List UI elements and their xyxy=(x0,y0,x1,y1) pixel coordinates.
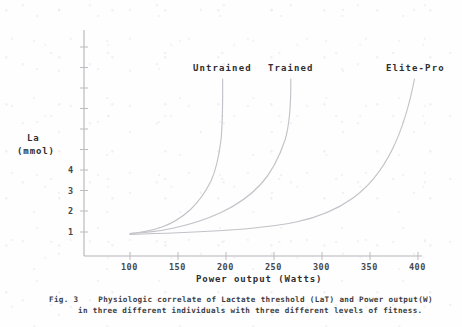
y-tick-label-4: 4 xyxy=(68,165,74,175)
y-tick-label-2: 2 xyxy=(68,206,74,216)
y-tick-label-3: 3 xyxy=(68,186,74,196)
x-tick-label-250: 250 xyxy=(265,262,282,272)
series-label-elite-pro: Elite-Pro xyxy=(386,63,445,73)
x-tick-label-400: 400 xyxy=(409,262,426,272)
curve-trained xyxy=(130,79,291,234)
y-axis-title-line2: (mmol) xyxy=(17,146,55,156)
x-tick-label-100: 100 xyxy=(121,262,138,272)
curve-elite-pro xyxy=(130,79,415,235)
x-axis-title: Power output (Watts) xyxy=(196,274,322,284)
curve-untrained xyxy=(130,79,223,234)
x-tick-label-200: 200 xyxy=(217,262,234,272)
figure-caption-line2: in three different individuals with thre… xyxy=(78,306,423,315)
series-label-untrained: Untrained xyxy=(193,63,252,73)
y-tick-label-1: 1 xyxy=(68,227,74,237)
x-tick-label-350: 350 xyxy=(361,262,378,272)
figure-caption-line1: Fig. 3 Physiologic correlate of Lactate … xyxy=(49,295,433,304)
y-axis-title-line1: La xyxy=(27,133,40,143)
x-tick-label-150: 150 xyxy=(169,262,186,272)
series-label-trained: Trained xyxy=(268,63,314,73)
figure-page: La (mmol) 1 2 3 4 100 150 200 250 300 35… xyxy=(0,0,462,327)
x-tick-label-300: 300 xyxy=(313,262,330,272)
